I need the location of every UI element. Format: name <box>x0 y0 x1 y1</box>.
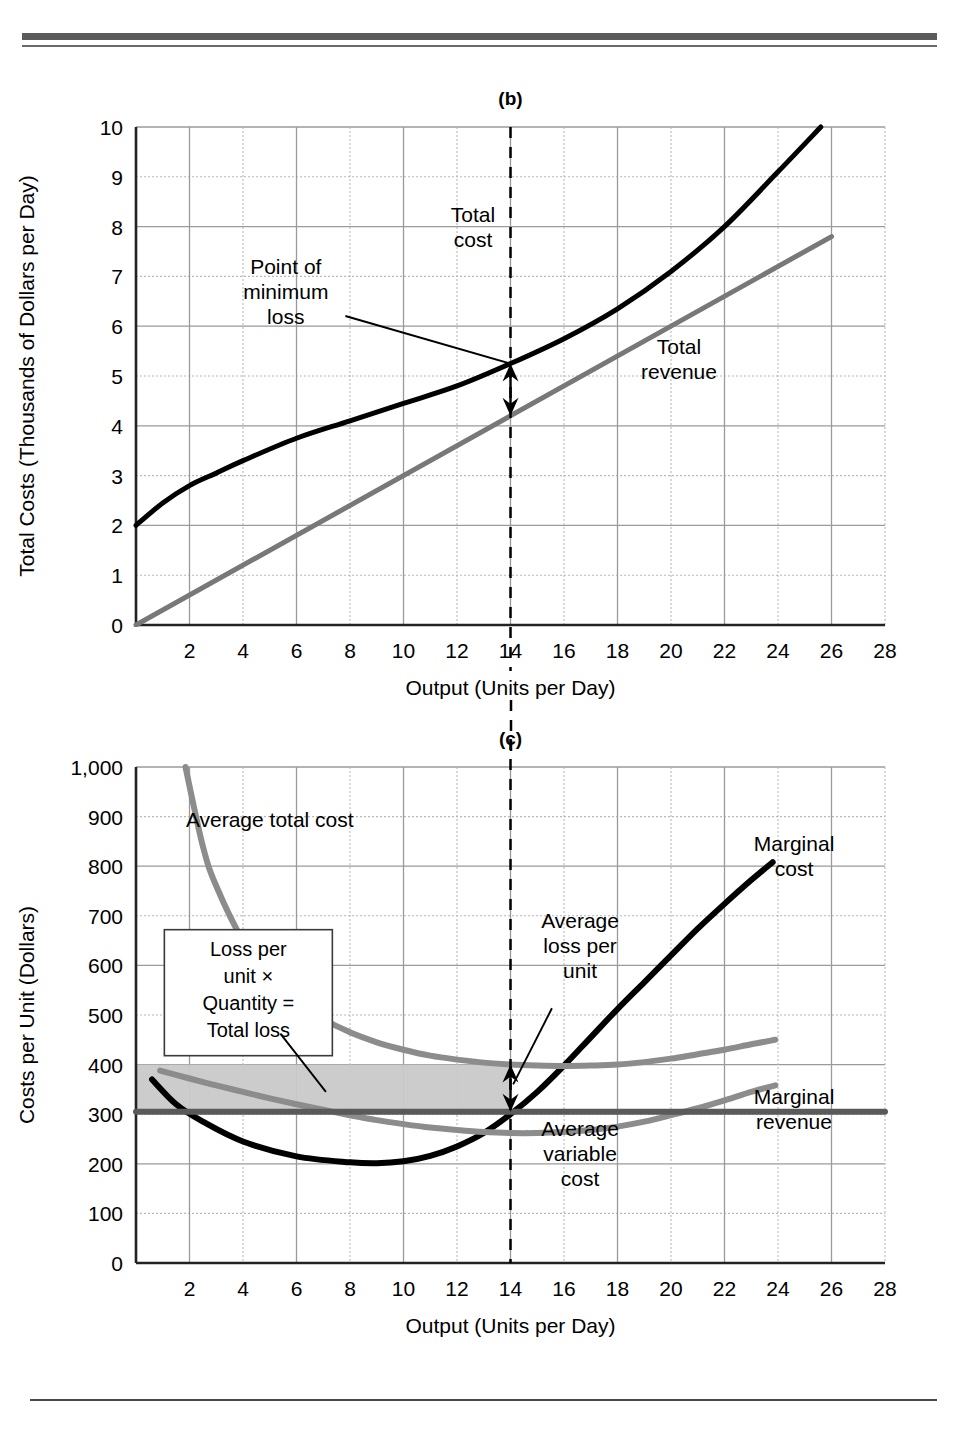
x-tick-label: 10 <box>392 639 415 662</box>
y-tick-label: 0 <box>111 614 123 637</box>
x-tick-label: 28 <box>873 1277 896 1300</box>
y-tick-label: 4 <box>111 415 123 438</box>
y-tick-label: 5 <box>111 365 123 388</box>
y-tick-label: 500 <box>88 1004 123 1027</box>
x-tick-label: 6 <box>291 1277 303 1300</box>
y-tick-label: 200 <box>88 1153 123 1176</box>
y-tick-label: 600 <box>88 954 123 977</box>
y-tick-label: 400 <box>88 1054 123 1077</box>
x-tick-label: 20 <box>659 639 682 662</box>
series-total-revenue <box>136 237 832 625</box>
label-average-total-cost: Average total cost <box>186 808 354 831</box>
y-tick-label: 1 <box>111 564 123 587</box>
panel-b-chart: 012345678910246810121416182022242628Outp… <box>0 60 959 720</box>
panel-connector-dashed-line <box>0 700 959 760</box>
leader-line <box>345 316 510 364</box>
y-axis-title: Total Costs (Thousands of Dollars per Da… <box>15 175 38 577</box>
x-tick-label: 4 <box>237 1277 249 1300</box>
header-rule-thick <box>22 33 937 40</box>
label-average-loss-per-unit: Averageloss perunit <box>541 909 619 982</box>
y-tick-label: 10 <box>100 116 123 139</box>
y-tick-label: 6 <box>111 315 123 338</box>
x-tick-label: 6 <box>291 639 303 662</box>
x-tick-label: 8 <box>344 639 356 662</box>
x-tick-label: 26 <box>820 639 843 662</box>
x-tick-label: 12 <box>445 639 468 662</box>
y-tick-label: 100 <box>88 1202 123 1225</box>
y-tick-label: 2 <box>111 514 123 537</box>
x-axis-title: Output (Units per Day) <box>405 676 615 699</box>
x-tick-label: 10 <box>392 1277 415 1300</box>
x-tick-label: 14 <box>499 1277 523 1300</box>
x-axis-title: Output (Units per Day) <box>405 1314 615 1337</box>
panel-c: 01002003004005006007008009001,0002468101… <box>0 718 959 1398</box>
x-tick-label: 28 <box>873 639 896 662</box>
x-tick-label: 22 <box>713 1277 736 1300</box>
x-tick-label: 12 <box>445 1277 468 1300</box>
x-tick-label: 2 <box>184 639 196 662</box>
panel-b: 012345678910246810121416182022242628Outp… <box>0 60 959 720</box>
y-tick-label: 700 <box>88 905 123 928</box>
y-tick-label: 0 <box>111 1252 123 1275</box>
annotations: TotalcostTotalrevenuePoint ofminimumloss <box>243 203 717 416</box>
y-axis-title: Costs per Unit (Dollars) <box>15 906 38 1124</box>
label-marginal-cost: Marginalcost <box>754 832 835 880</box>
label-total-revenue: Totalrevenue <box>641 335 717 383</box>
y-tick-label: 8 <box>111 216 123 239</box>
x-tick-label: 24 <box>766 639 790 662</box>
x-tick-label: 4 <box>237 639 249 662</box>
y-tick-label: 7 <box>111 265 123 288</box>
x-tick-label: 16 <box>552 1277 575 1300</box>
x-tick-label: 14 <box>499 639 523 662</box>
footer-rule <box>30 1399 937 1401</box>
leader-line <box>513 1008 552 1084</box>
x-tick-label: 24 <box>766 1277 790 1300</box>
x-tick-label: 2 <box>184 1277 196 1300</box>
y-tick-label: 300 <box>88 1103 123 1126</box>
x-tick-label: 18 <box>606 1277 629 1300</box>
x-tick-label: 22 <box>713 639 736 662</box>
panel-title: (b) <box>498 88 522 109</box>
y-tick-label: 9 <box>111 166 123 189</box>
header-rule-thin <box>22 45 937 47</box>
x-tick-label: 8 <box>344 1277 356 1300</box>
figure-page: 012345678910246810121416182022242628Outp… <box>0 0 959 1442</box>
x-tick-label: 18 <box>606 639 629 662</box>
panel-c-chart: 01002003004005006007008009001,0002468101… <box>0 718 959 1398</box>
label-point-of-minimum-loss: Point ofminimumloss <box>243 255 328 328</box>
x-tick-label: 26 <box>820 1277 843 1300</box>
x-tick-label: 16 <box>552 639 575 662</box>
label-average-variable-cost: Averagevariablecost <box>541 1117 619 1190</box>
y-tick-label: 900 <box>88 806 123 829</box>
y-tick-label: 800 <box>88 855 123 878</box>
y-tick-label: 3 <box>111 465 123 488</box>
x-tick-label: 20 <box>659 1277 682 1300</box>
